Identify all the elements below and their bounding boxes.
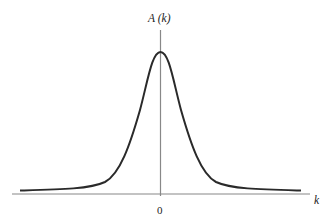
x-axis-label: k xyxy=(314,194,320,206)
origin-tick-label: 0 xyxy=(157,204,163,216)
y-axis-label: A (k) xyxy=(147,12,171,25)
gaussian-chart: A (k) k 0 xyxy=(0,0,329,224)
